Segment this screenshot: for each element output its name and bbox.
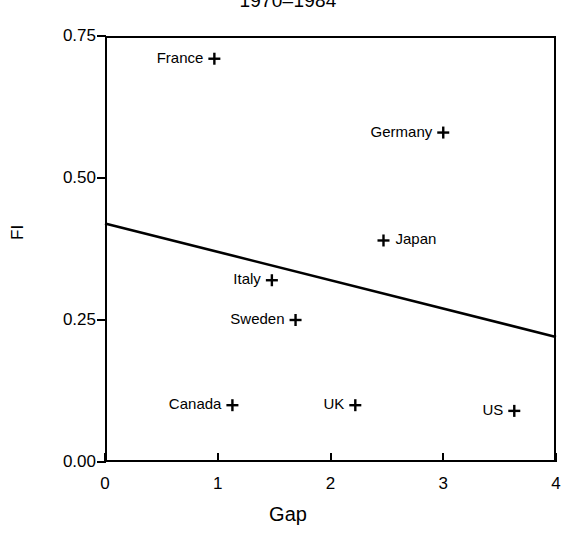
point-label-sweden: Sweden [230,310,284,327]
x-tick-label: 1 [213,474,222,494]
data-point-marker [290,314,302,326]
data-point-marker [437,127,449,139]
trend-line [105,223,556,337]
x-tick-label: 3 [439,474,448,494]
y-tick-mark [97,177,106,179]
point-label-germany: Germany [371,122,433,139]
data-point-marker [508,405,520,417]
y-tick-label: 0.75 [46,26,96,46]
y-tick-mark [97,319,106,321]
y-tick-label: 0.25 [46,310,96,330]
data-point-marker [377,234,389,246]
point-label-us: US [482,400,503,417]
point-label-france: France [157,48,204,65]
point-label-italy: Italy [233,270,261,287]
x-tick-mark [104,453,106,462]
regression-line-layer [105,223,556,337]
y-tick-mark [97,35,106,37]
x-tick-label: 4 [551,474,560,494]
x-tick-mark [330,453,332,462]
point-label-canada: Canada [169,395,222,412]
x-tick-label: 0 [100,474,109,494]
x-tick-mark [555,453,557,462]
x-tick-mark [442,453,444,462]
data-point-markers [208,53,520,417]
data-point-marker [208,53,220,65]
y-tick-label: 0.50 [46,168,96,188]
x-axis-label: Gap [0,503,576,526]
point-label-uk: UK [323,395,344,412]
x-tick-label: 2 [326,474,335,494]
data-point-marker [266,274,278,286]
chart-container: 1970–1984 0.000.250.500.7501234 FranceGe… [0,0,576,539]
y-axis-label: FI [8,225,28,240]
y-tick-label: 0.00 [46,452,96,472]
point-label-japan: Japan [395,230,436,247]
x-tick-mark [217,453,219,462]
data-point-marker [349,399,361,411]
data-point-marker [226,399,238,411]
